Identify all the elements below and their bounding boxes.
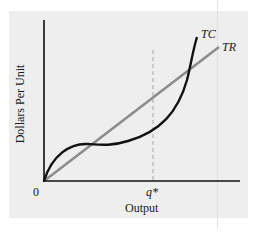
origin-label: 0 <box>33 185 39 200</box>
x-axis-label: Output <box>125 201 158 216</box>
y-axis-label: Dollars Per Unit <box>13 65 28 144</box>
tc-curve <box>44 37 197 181</box>
qstar-tick-label: q* <box>146 185 158 200</box>
tc-label: TC <box>201 27 216 42</box>
tr-label: TR <box>222 40 236 55</box>
tr-curve <box>44 47 219 181</box>
